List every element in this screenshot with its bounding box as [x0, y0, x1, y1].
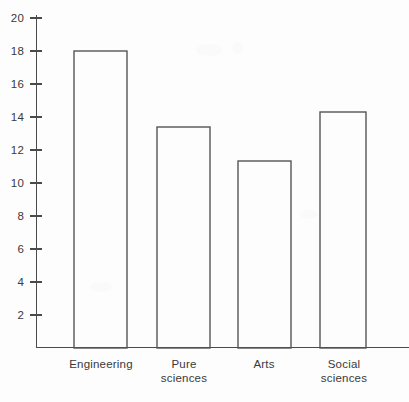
bar-arts [238, 161, 291, 348]
y-tick-label-12: 12 [2, 144, 24, 156]
y-tick-label-20: 20 [2, 12, 24, 24]
y-tick-label-16: 16 [2, 78, 24, 90]
y-tick-label-10: 10 [2, 177, 24, 189]
bar-pure-sciences [157, 127, 210, 348]
y-tick-label-2: 2 [2, 309, 24, 321]
y-tick-label-8: 8 [2, 210, 24, 222]
y-tick-label-18: 18 [2, 45, 24, 57]
chart-canvas [0, 0, 409, 402]
bar-social-sciences [320, 112, 366, 348]
bar-chart: 20 18 16 14 12 10 8 6 4 2 Engineering Pu… [0, 0, 409, 402]
y-tick-label-4: 4 [2, 276, 24, 288]
x-label-pure-sciences: Pure sciences [143, 357, 225, 385]
y-tick-label-14: 14 [2, 111, 24, 123]
y-tick-label-6: 6 [2, 243, 24, 255]
x-label-social-sciences: Social sciences [303, 357, 385, 385]
bar-engineering [74, 51, 127, 348]
x-label-engineering: Engineering [50, 357, 152, 371]
x-label-arts: Arts [233, 357, 295, 371]
